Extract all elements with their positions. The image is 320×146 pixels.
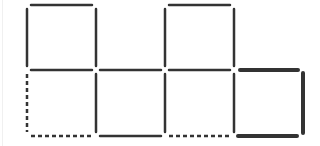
matchstick-diagram — [0, 0, 320, 146]
